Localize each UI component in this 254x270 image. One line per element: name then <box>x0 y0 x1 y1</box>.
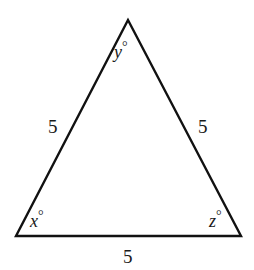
angle-label-bottom-left: x° <box>29 208 44 231</box>
side-length-bottom: 5 <box>123 246 133 267</box>
angle-label-bottom-right: z° <box>208 208 222 231</box>
degree-symbol-bottom-right: ° <box>216 208 222 223</box>
angle-variable-bottom-left: x <box>29 211 38 231</box>
angle-variable-top: y <box>112 42 122 62</box>
triangle-diagram: y° x° z° 5 5 5 <box>0 0 254 270</box>
degree-symbol-top: ° <box>122 39 128 54</box>
degree-symbol-bottom-left: ° <box>38 208 44 223</box>
side-length-left: 5 <box>48 116 58 137</box>
angle-variable-bottom-right: z <box>208 211 216 231</box>
side-length-right: 5 <box>198 116 208 137</box>
angle-label-top: y° <box>112 39 128 62</box>
